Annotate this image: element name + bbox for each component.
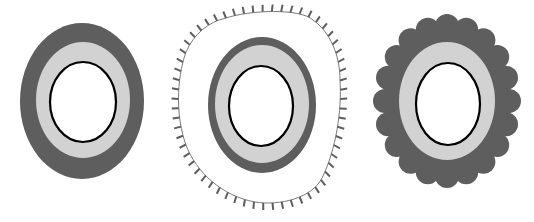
tick-mark xyxy=(205,19,209,25)
tick-mark xyxy=(331,154,337,158)
figure-ticked xyxy=(172,5,348,210)
tick-mark xyxy=(190,32,195,37)
tick-mark xyxy=(177,59,183,62)
tick-mark xyxy=(195,169,200,174)
tick-mark xyxy=(177,136,184,139)
tick-mark xyxy=(325,172,330,177)
tick-mark xyxy=(201,176,205,182)
tick-mark xyxy=(253,6,254,13)
diagram-canvas xyxy=(0,0,534,222)
tick-mark xyxy=(340,99,347,100)
tick-mark xyxy=(338,127,345,129)
tick-mark xyxy=(173,117,180,118)
tick-mark xyxy=(209,182,213,188)
tick-mark xyxy=(197,25,201,30)
tick-mark xyxy=(291,200,293,207)
tick-mark xyxy=(214,15,217,21)
figure-plain xyxy=(20,23,144,179)
tick-mark xyxy=(290,6,292,13)
tick-mark xyxy=(184,153,190,157)
tick-mark xyxy=(328,31,333,36)
tick-mark xyxy=(281,5,283,12)
tick-mark xyxy=(315,187,319,193)
tick-mark xyxy=(175,68,182,71)
tick-mark xyxy=(174,127,181,129)
tick-mark xyxy=(321,180,325,186)
tick-mark xyxy=(184,40,189,45)
tick-mark xyxy=(223,12,226,19)
tick-mark xyxy=(225,192,228,199)
tick-mark xyxy=(323,23,327,28)
tick-mark xyxy=(340,78,347,80)
tick-mark xyxy=(300,197,303,204)
tick-mark xyxy=(272,5,273,12)
inner-core xyxy=(50,62,116,142)
tick-mark xyxy=(340,68,346,71)
tick-mark xyxy=(172,88,179,89)
inner-core xyxy=(229,66,293,146)
tick-mark xyxy=(334,145,340,148)
tick-mark xyxy=(244,200,245,207)
tick-mark xyxy=(300,8,303,15)
tick-mark xyxy=(328,163,333,168)
tick-mark xyxy=(172,98,179,99)
figure-scalloped xyxy=(373,14,521,188)
tick-mark xyxy=(234,196,236,203)
tick-mark xyxy=(282,202,283,209)
tick-mark xyxy=(340,89,347,90)
tick-mark xyxy=(316,16,320,22)
tick-mark xyxy=(189,161,194,166)
tick-mark xyxy=(217,188,220,194)
tick-mark xyxy=(173,78,180,80)
tick-mark xyxy=(339,118,346,119)
tick-mark xyxy=(338,59,344,62)
tick-mark xyxy=(180,145,186,148)
tick-mark xyxy=(336,49,342,53)
tick-mark xyxy=(243,7,244,14)
inner-core xyxy=(416,63,480,145)
tick-mark xyxy=(333,40,338,45)
tick-mark xyxy=(336,136,343,139)
tick-mark xyxy=(273,203,274,210)
tick-mark xyxy=(233,9,235,16)
tick-mark xyxy=(308,11,311,17)
tick-mark xyxy=(308,193,311,199)
tick-mark xyxy=(253,202,254,209)
tick-mark xyxy=(180,49,186,53)
